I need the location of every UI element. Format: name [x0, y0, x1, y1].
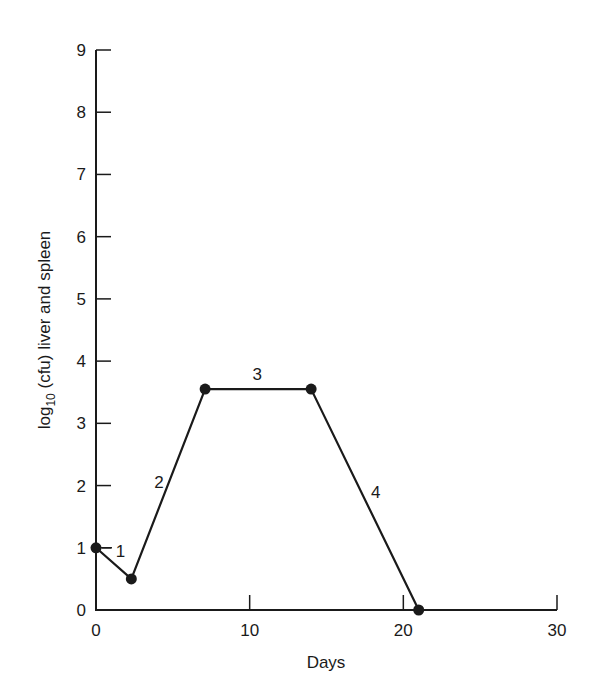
- data-point-marker: [306, 384, 317, 395]
- chart: 0123456789 0102030 1234 Days log10 (cfu)…: [0, 0, 601, 697]
- x-tick-label: 30: [548, 621, 567, 640]
- y-tick-label: 1: [77, 539, 86, 558]
- y-tick-label: 9: [77, 41, 86, 60]
- x-axis-ticks: 0102030: [91, 595, 566, 640]
- y-axis-title-prefix: log: [35, 407, 54, 430]
- data-point-marker: [413, 605, 424, 616]
- x-tick-label: 20: [394, 621, 413, 640]
- y-tick-label: 7: [77, 165, 86, 184]
- x-tick-label: 0: [91, 621, 100, 640]
- segment-label: 3: [253, 365, 262, 384]
- segment-label: 4: [371, 483, 380, 502]
- y-tick-label: 8: [77, 103, 86, 122]
- y-tick-label: 2: [77, 477, 86, 496]
- segment-labels: 1234: [116, 365, 381, 561]
- data-point-marker: [91, 542, 102, 553]
- x-tick-label: 10: [240, 621, 259, 640]
- y-axis-title-suffix: (cfu) liver and spleen: [35, 231, 54, 394]
- y-tick-label: 3: [77, 414, 86, 433]
- data-point-marker: [200, 384, 211, 395]
- y-tick-label: 0: [77, 601, 86, 620]
- y-axis-ticks: 0123456789: [77, 41, 111, 620]
- axes: [95, 50, 557, 610]
- y-axis-title: log10 (cfu) liver and spleen: [35, 231, 58, 430]
- y-axis-title-subscript: 10: [44, 393, 58, 407]
- segment-label: 1: [116, 542, 125, 561]
- y-tick-label: 5: [77, 290, 86, 309]
- x-axis-title: Days: [307, 653, 346, 672]
- data-point-marker: [126, 573, 137, 584]
- y-tick-label: 4: [77, 352, 86, 371]
- segment-label: 2: [154, 473, 163, 492]
- y-tick-label: 6: [77, 228, 86, 247]
